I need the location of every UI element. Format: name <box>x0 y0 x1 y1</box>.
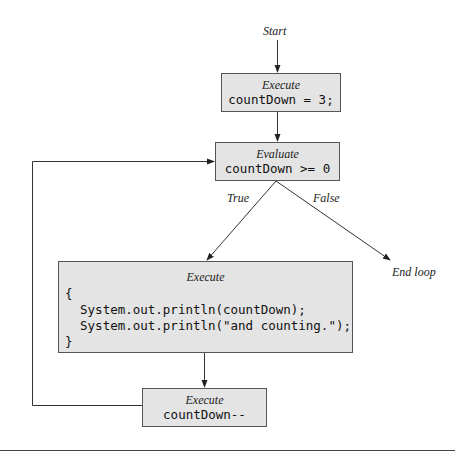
false-branch-label: False <box>313 191 340 206</box>
condition-box: Evaluate countDown >= 0 <box>215 142 340 181</box>
update-box: Execute countDown-- <box>142 388 267 427</box>
update-keyword: Execute <box>143 393 266 407</box>
body-box: Execute { System.out.println(countDown);… <box>58 261 353 353</box>
init-box: Execute countDown = 3; <box>221 73 341 112</box>
body-code-line: { <box>65 286 352 302</box>
condition-keyword: Evaluate <box>216 147 339 161</box>
end-loop-label: End loop <box>392 265 436 280</box>
init-keyword: Execute <box>222 78 340 92</box>
update-code: countDown-- <box>143 407 266 423</box>
body-code-line: System.out.println(countDown); <box>65 302 352 318</box>
body-code-line: } <box>65 334 352 350</box>
condition-code: countDown >= 0 <box>216 161 339 177</box>
flowchart-canvas: Start Execute countDown = 3; Evaluate co… <box>0 0 467 463</box>
true-branch-label: True <box>227 191 249 206</box>
body-code-line: System.out.println("and counting."); <box>65 318 352 334</box>
body-keyword: Execute <box>59 270 352 284</box>
start-label: Start <box>263 24 286 39</box>
body-code-block: { System.out.println(countDown); System.… <box>59 286 352 350</box>
init-code: countDown = 3; <box>222 92 340 108</box>
